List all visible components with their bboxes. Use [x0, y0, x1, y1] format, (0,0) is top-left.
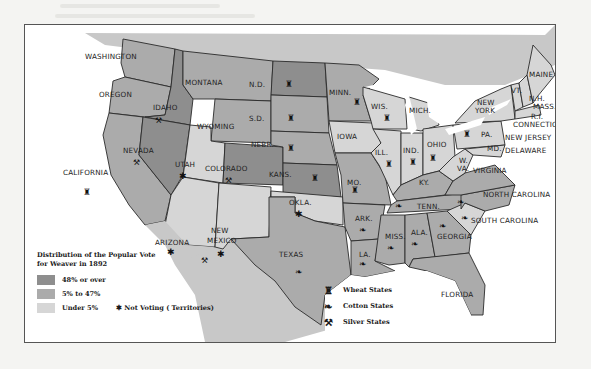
svg-text:VA.: VA.: [457, 164, 469, 173]
svg-text:VIRGINIA: VIRGINIA: [473, 166, 507, 175]
legend-row-mid: 5% to 47%: [37, 287, 214, 301]
swatch-high: [37, 275, 55, 285]
silver-icon: ⚒: [225, 176, 232, 185]
wheat-icon: ♜: [287, 143, 295, 153]
svg-text:WIS.: WIS.: [371, 102, 388, 111]
bleed-through-text: [55, 14, 255, 18]
svg-text:MISS.: MISS.: [385, 232, 406, 241]
symbol-legend: ♜ Wheat States ❧ Cotton States ⚒ Silver …: [319, 282, 393, 330]
svg-text:MASS.: MASS.: [533, 102, 555, 111]
swatch-low: [37, 303, 55, 313]
svg-text:IOWA: IOWA: [337, 132, 357, 141]
svg-text:NEVADA: NEVADA: [123, 146, 154, 155]
cotton-icon: ❧: [295, 267, 303, 277]
wheat-icon: ♜: [353, 97, 361, 107]
svg-text:FLORIDA: FLORIDA: [441, 290, 473, 299]
state-north-dakota: [271, 61, 327, 97]
wheat-icon: ♜: [463, 129, 471, 139]
not-voting-icon: ✱: [179, 171, 187, 181]
wheat-icon: ♜: [285, 79, 293, 89]
svg-text:MD.: MD.: [487, 144, 502, 153]
svg-text:TEXAS: TEXAS: [278, 250, 304, 259]
cotton-icon: ❧: [387, 243, 395, 253]
svg-text:WYOMING: WYOMING: [197, 122, 234, 131]
svg-text:NEBR.: NEBR.: [251, 140, 274, 149]
svg-text:WASHINGTON: WASHINGTON: [85, 52, 137, 61]
svg-text:TENN.: TENN.: [416, 202, 440, 211]
svg-text:GEORGIA: GEORGIA: [437, 232, 472, 241]
not-voting-icon: ✱: [295, 209, 303, 219]
svg-text:OKLA.: OKLA.: [289, 198, 312, 207]
map-frame: WASHINGTON OREGON CALIFORNIA IDAHO NEVAD…: [24, 24, 556, 343]
svg-text:MAINE: MAINE: [529, 70, 553, 79]
svg-text:MICH.: MICH.: [409, 106, 431, 115]
wheat-icon: ♜: [311, 173, 319, 183]
cotton-icon: ❧: [411, 239, 419, 249]
svg-text:OHIO: OHIO: [427, 140, 447, 149]
cotton-icon: ❧: [359, 259, 367, 269]
state-south-dakota: [271, 95, 329, 133]
legend-wheat: ♜ Wheat States: [319, 282, 393, 298]
svg-text:IDAHO: IDAHO: [153, 103, 178, 112]
wheat-icon: ♜: [83, 187, 91, 197]
cotton-icon: ❧: [457, 197, 465, 207]
svg-text:PA.: PA.: [481, 130, 493, 139]
cotton-icon: ❧: [461, 213, 469, 223]
svg-text:ALA.: ALA.: [411, 228, 428, 237]
svg-text:N.H.: N.H.: [529, 94, 545, 103]
svg-text:MINN.: MINN.: [329, 88, 351, 97]
wheat-icon: ♜: [383, 113, 391, 123]
svg-text:KY.: KY.: [419, 178, 429, 187]
wheat-icon: ♜: [351, 185, 359, 195]
wheat-icon: ♜: [429, 153, 437, 163]
svg-text:SOUTH CAROLINA: SOUTH CAROLINA: [471, 216, 538, 225]
svg-text:UTAH: UTAH: [175, 160, 195, 169]
svg-text:ARIZONA: ARIZONA: [155, 238, 189, 247]
not-voting-legend: ✱ Not Voting ( Territories): [116, 304, 214, 312]
svg-text:IND.: IND.: [403, 146, 419, 155]
svg-text:MEXICO: MEXICO: [207, 236, 237, 245]
wheat-icon: ♜: [409, 157, 417, 167]
svg-text:CONNECTICUT: CONNECTICUT: [513, 120, 555, 129]
svg-text:DELAWARE: DELAWARE: [505, 146, 547, 155]
swatch-mid: [37, 289, 55, 299]
svg-text:ILL.: ILL.: [375, 148, 388, 157]
silver-icon: ⚒: [133, 158, 140, 167]
legend-cotton: ❧ Cotton States: [319, 298, 393, 314]
legend-row-low: Under 5% ✱ Not Voting ( Territories): [37, 301, 214, 315]
svg-text:MONTANA: MONTANA: [185, 78, 223, 87]
legend-silver: ⚒ Silver States: [319, 314, 393, 330]
svg-text:KANS.: KANS.: [269, 170, 292, 179]
svg-text:N.D.: N.D.: [249, 80, 265, 89]
silver-icon: ⚒: [319, 317, 337, 328]
svg-text:YORK: YORK: [474, 106, 495, 115]
legend-title: Distribution of the Popular Vote for Wea…: [37, 251, 167, 269]
svg-text:COLORADO: COLORADO: [205, 164, 248, 173]
bleed-through-text: [60, 4, 220, 8]
svg-text:R.I.: R.I.: [531, 112, 543, 121]
silver-icon: ⚒: [155, 116, 162, 125]
svg-text:S.D.: S.D.: [249, 114, 264, 123]
svg-text:ARK.: ARK.: [355, 214, 373, 223]
svg-text:VT.: VT.: [511, 86, 522, 95]
svg-text:NORTH CAROLINA: NORTH CAROLINA: [483, 190, 550, 199]
wheat-icon: ♜: [287, 113, 295, 123]
svg-text:NEW: NEW: [211, 226, 229, 235]
wheat-icon: ♜: [385, 159, 393, 169]
svg-text:NEW JERSEY: NEW JERSEY: [505, 133, 552, 142]
cotton-icon: ❧: [319, 301, 337, 312]
cotton-icon: ❧: [359, 225, 367, 235]
cotton-icon: ❧: [439, 221, 447, 231]
cotton-icon: ❧: [395, 201, 403, 211]
wheat-icon: ♜: [319, 285, 337, 296]
svg-text:OREGON: OREGON: [99, 90, 132, 99]
vote-legend: Distribution of the Popular Vote for Wea…: [37, 251, 214, 315]
legend-row-high: 48% or over: [37, 273, 214, 287]
svg-text:LA.: LA.: [359, 250, 371, 259]
not-voting-icon: ✱: [217, 249, 225, 259]
svg-text:CALIFORNIA: CALIFORNIA: [63, 168, 108, 177]
